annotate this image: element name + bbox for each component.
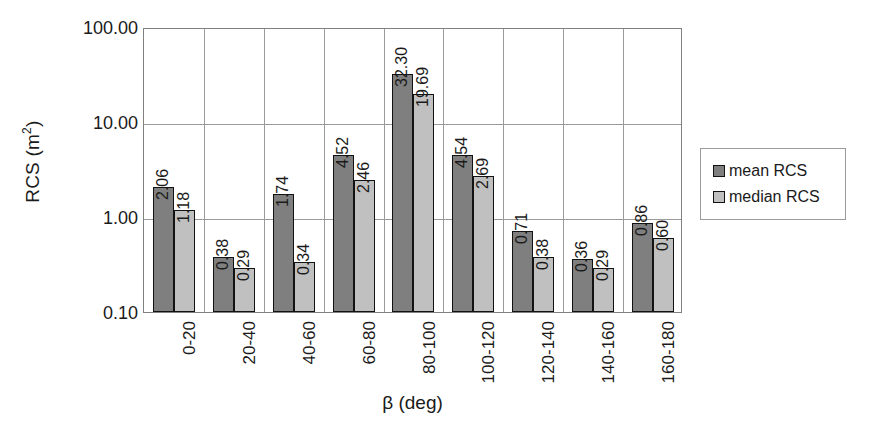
bar-mean-rcs <box>153 187 174 312</box>
bar-value-label: 2.69 <box>475 158 491 189</box>
y-axis-tick-label: 100.00 <box>58 18 138 39</box>
x-axis-tick-label: 160-180 <box>660 321 677 383</box>
bar-mean-rcs <box>392 74 413 312</box>
bar-value-label: 32.30 <box>394 47 410 87</box>
bar-value-label: 0.29 <box>236 250 252 281</box>
plot-area: 2.061.180.380.291.740.344.522.4632.3019.… <box>143 28 682 313</box>
bar-mean-rcs <box>333 155 354 312</box>
y-axis-title-superscript: 2 <box>20 127 34 134</box>
x-axis-tick-label: 0-20 <box>181 321 198 355</box>
bar-value-label: 2.46 <box>356 162 372 193</box>
x-axis-tick-label: 80-100 <box>421 321 438 374</box>
bar-group: 2.061.18 <box>144 29 204 312</box>
rcs-bar-chart: RCS (m2) 100.0010.001.000.10 2.061.180.3… <box>0 0 883 429</box>
bar-median-rcs <box>354 180 375 312</box>
bar-value-label: 19.69 <box>415 67 431 107</box>
bar-group: 4.522.46 <box>324 29 384 312</box>
y-axis-title-paren: ) <box>22 121 43 128</box>
bar-value-label: 0.36 <box>574 241 590 272</box>
x-axis-tick-label: 120-140 <box>540 321 557 383</box>
bar-value-label: 0.38 <box>215 239 231 270</box>
bar-median-rcs <box>413 94 434 312</box>
bar-value-label: 2.06 <box>155 169 171 200</box>
y-axis-tick-label: 1.00 <box>58 208 138 229</box>
legend-item: median RCS <box>701 184 845 210</box>
bar-group: 0.360.29 <box>563 29 623 312</box>
y-axis-tick-label: 10.00 <box>58 113 138 134</box>
bar-group: 32.3019.69 <box>384 29 444 312</box>
bar-value-label: 0.34 <box>296 243 312 274</box>
y-axis-title: RCS (m2) <box>20 92 43 232</box>
bar-group: 1.740.34 <box>264 29 324 312</box>
bar-mean-rcs <box>632 223 653 312</box>
y-axis-title-text: RCS (m <box>22 134 43 203</box>
bar-group: 0.380.29 <box>204 29 264 312</box>
legend-item: mean RCS <box>701 158 845 184</box>
bar-value-label: 1.18 <box>176 192 192 223</box>
bar-mean-rcs <box>452 155 473 312</box>
bar-value-label: 4.52 <box>335 137 351 168</box>
bar-value-label: 1.74 <box>275 176 291 207</box>
bar-mean-rcs <box>273 194 294 312</box>
bar-group: 0.860.60 <box>623 29 683 312</box>
bar-value-label: 0.60 <box>655 220 671 251</box>
x-axis-tick-label: 60-80 <box>361 321 378 364</box>
x-axis-title: β (deg) <box>143 392 682 414</box>
bar-median-rcs <box>473 176 494 312</box>
bar-value-label: 0.71 <box>514 213 530 244</box>
bar-value-label: 0.86 <box>634 205 650 236</box>
bar-value-label: 0.38 <box>535 239 551 270</box>
legend-item-label: median RCS <box>729 188 820 206</box>
bar-group: 0.710.38 <box>503 29 563 312</box>
x-axis-tick-label: 100-120 <box>480 321 497 383</box>
chart-legend: mean RCSmedian RCS <box>700 148 846 220</box>
legend-swatch-median <box>713 191 725 203</box>
bar-value-label: 4.54 <box>454 136 470 167</box>
y-axis-tick-labels: 100.0010.001.000.10 <box>52 0 138 429</box>
legend-swatch-mean <box>713 165 725 177</box>
bar-value-label: 0.29 <box>595 250 611 281</box>
bar-group: 4.542.69 <box>443 29 503 312</box>
bar-median-rcs <box>174 210 195 312</box>
y-axis-tick-label: 0.10 <box>58 303 138 324</box>
x-axis-tick-label: 40-60 <box>301 321 318 364</box>
x-axis-tick-labels: 0-2020-4040-6060-8080-100100-120120-1401… <box>143 313 682 393</box>
x-axis-tick-label: 140-160 <box>600 321 617 383</box>
legend-item-label: mean RCS <box>729 162 807 180</box>
x-axis-tick-label: 20-40 <box>241 321 258 364</box>
